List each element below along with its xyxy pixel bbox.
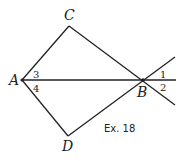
label-b: B [136,84,147,100]
caption: Ex. 18 [104,123,135,134]
point-b-dot [141,78,145,82]
angle-2-label: 2 [160,82,166,93]
label-c: C [64,7,75,23]
angle-4-label: 4 [33,83,39,94]
geometry-figure: A C B D 3 4 1 2 Ex. 18 [0,0,187,161]
line-cb-extended [69,26,175,105]
label-a: A [7,72,19,88]
point-a-dot [20,78,23,81]
label-d: D [61,138,73,154]
segment-ad [22,80,68,136]
segment-ac [22,26,69,80]
angle-3-label: 3 [33,69,39,80]
angle-1-label: 1 [160,69,166,80]
